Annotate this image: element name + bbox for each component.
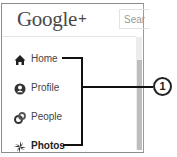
sidebar-item-photos[interactable]: Photos: [14, 137, 65, 153]
sidebar-item-label: Profile: [31, 82, 59, 93]
callout-line-horizontal: [81, 86, 153, 88]
sidebar-item-label: Photos: [31, 140, 65, 151]
sidebar-item-label: People: [31, 111, 62, 122]
scrollbar-thumb[interactable]: [137, 60, 142, 150]
callout-number-badge: 1: [153, 77, 172, 96]
search-placeholder: Sear: [124, 14, 145, 25]
photos-icon: [14, 139, 26, 151]
callout-bracket-vertical: [81, 57, 83, 146]
header-divider: [2, 36, 136, 37]
sidebar-item-label: Home: [31, 53, 58, 64]
logo-text: Google: [17, 7, 77, 31]
profile-icon: [14, 81, 26, 93]
callout-line-home: [62, 57, 83, 59]
home-icon: [14, 52, 26, 64]
sidebar-item-home[interactable]: Home: [14, 50, 58, 66]
callout-line-photos: [63, 144, 83, 146]
sidebar-item-profile[interactable]: Profile: [14, 79, 59, 95]
sidebar-item-people[interactable]: People: [14, 108, 62, 124]
people-icon: [14, 110, 26, 122]
google-plus-logo[interactable]: Google+: [17, 7, 87, 32]
search-input[interactable]: Sear: [119, 9, 149, 29]
logo-plus: +: [78, 9, 86, 26]
